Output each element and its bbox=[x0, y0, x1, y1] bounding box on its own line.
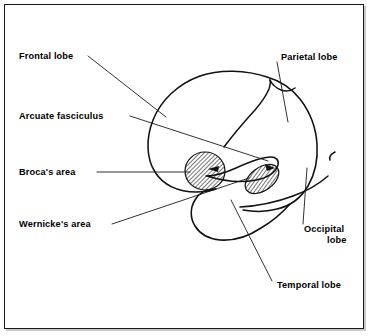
leader-occipital-lobe bbox=[303, 168, 307, 224]
label-occipital-lobe-line1: Occipital bbox=[304, 224, 344, 234]
leader-parietal-lobe bbox=[277, 62, 288, 122]
brain-outline-group bbox=[148, 71, 335, 240]
label-temporal-lobe: Temporal lobe bbox=[277, 280, 341, 290]
leader-frontal-lobe bbox=[88, 56, 166, 117]
preoccipital-notch bbox=[330, 152, 335, 160]
leader-temporal-lobe bbox=[231, 200, 272, 281]
brocas-area-shape bbox=[185, 152, 225, 190]
temporal-lobe-outline bbox=[191, 189, 290, 240]
brain-diagram: Frontal lobe Arcuate fasciculus Broca's … bbox=[0, 0, 372, 336]
label-parietal-lobe: Parietal lobe bbox=[281, 52, 338, 62]
cerebrum-outline bbox=[148, 71, 317, 211]
leader-wernickes-area bbox=[112, 178, 249, 224]
label-occipital-lobe-line2: lobe bbox=[327, 235, 347, 245]
label-arcuate-fasciculus: Arcuate fasciculus bbox=[19, 111, 103, 121]
label-frontal-lobe: Frontal lobe bbox=[19, 51, 73, 61]
figure-root: Frontal lobe Arcuate fasciculus Broca's … bbox=[0, 0, 372, 336]
annotation-labels: Frontal lobe Arcuate fasciculus Broca's … bbox=[19, 51, 347, 290]
postcentral-notch bbox=[270, 80, 295, 91]
label-brocas-area: Broca's area bbox=[19, 167, 76, 177]
central-sulcus bbox=[224, 80, 270, 147]
label-wernickes-area: Wernicke's area bbox=[19, 219, 91, 229]
